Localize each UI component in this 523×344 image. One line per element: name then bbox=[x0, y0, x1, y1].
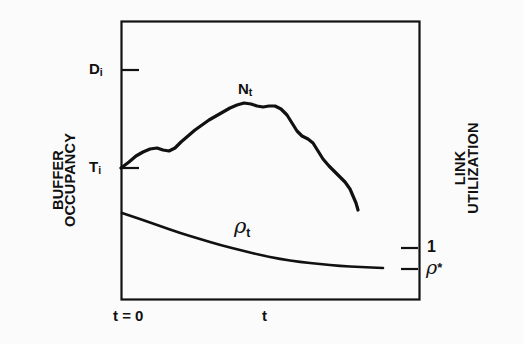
curve-label-N-sub: t bbox=[249, 86, 253, 98]
curve-link-utilization bbox=[122, 213, 383, 268]
tick-label-D-i: Di bbox=[89, 60, 103, 78]
axis-label-right-line2: UTILIZATION bbox=[465, 108, 481, 228]
star-glyph: * bbox=[437, 260, 442, 275]
plot-svg bbox=[0, 0, 523, 344]
rho-glyph: ρ bbox=[426, 256, 437, 278]
curve-label-N-t: Nt bbox=[238, 80, 252, 98]
curve-buffer-occupancy bbox=[121, 103, 358, 210]
tick-label-T-i: Ti bbox=[89, 158, 101, 176]
tick-label-T-i-text: T bbox=[89, 158, 98, 175]
right-tick-marks bbox=[401, 248, 418, 269]
tick-label-T-i-sub: i bbox=[98, 164, 101, 176]
x-axis-variable-label: t bbox=[262, 307, 267, 324]
axis-label-left-line2: OCCUPANCY bbox=[62, 120, 78, 240]
curve-label-rho-sub: t bbox=[246, 226, 250, 240]
left-tick-marks bbox=[122, 70, 139, 168]
tick-label-D-i-sub: i bbox=[100, 66, 103, 78]
curve-label-rho-t: ρt bbox=[234, 214, 250, 240]
tick-label-rho-star: ρ* bbox=[426, 256, 442, 278]
curve-label-rho-text: ρ bbox=[234, 214, 246, 238]
curve-label-N-text: N bbox=[238, 80, 249, 97]
figure-container: BUFFER OCCUPANCY LINK UTILIZATION Di Ti … bbox=[0, 0, 523, 344]
x-axis-origin-label: t = 0 bbox=[113, 307, 143, 324]
tick-label-D-i-text: D bbox=[89, 60, 100, 77]
tick-label-one: 1 bbox=[427, 238, 436, 256]
